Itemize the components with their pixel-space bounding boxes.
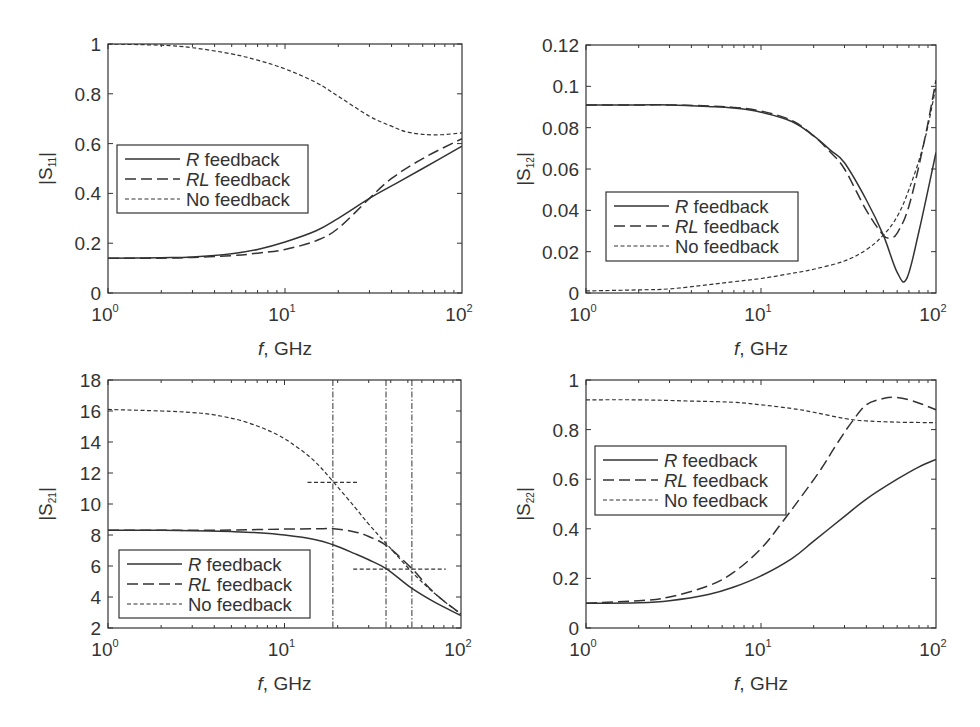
legend-entry-symbol: R (186, 149, 199, 170)
y-tick-label: 0.8 (75, 84, 101, 105)
legend-entry-symbol: R (664, 450, 677, 471)
x-tick-exponent: 2 (466, 637, 472, 649)
x-axis-label: f, GHz (734, 673, 788, 694)
legend-entry-text: feedback (199, 149, 280, 170)
y-tick-label: 18 (80, 370, 101, 391)
legend-entry-text: feedback (210, 169, 291, 190)
y-tick-label: 0.02 (542, 242, 579, 263)
x-tick-label: 101 (268, 302, 295, 325)
subplot-s21: 24681012141618100101102f, GHz|S21|R feed… (35, 370, 472, 694)
figure: 00.20.40.60.81100101102f, GHz|S11|R feed… (0, 0, 980, 727)
y-axis-label-end: | (35, 152, 56, 157)
y-tick-label: 0.4 (75, 183, 102, 204)
x-tick-exponent: 1 (290, 302, 296, 314)
subplot-s11: 00.20.40.60.81100101102f, GHz|S11|R feed… (35, 34, 473, 359)
y-tick-label: 0.08 (542, 118, 579, 139)
x-tick-exponent: 1 (766, 637, 772, 649)
x-tick-base: 10 (569, 304, 590, 325)
legend-entry-text: No feedback (188, 594, 293, 615)
x-tick-label: 102 (445, 302, 472, 325)
x-tick-base: 10 (744, 304, 765, 325)
series-line-no-feedback (108, 44, 462, 135)
y-tick-label: 0.4 (553, 519, 580, 540)
x-tick-exponent: 2 (941, 302, 947, 314)
y-axis-label-base: |S (35, 167, 56, 185)
legend-entry-text: No feedback (186, 189, 291, 210)
x-axis-label-unit: , GHz (739, 338, 788, 359)
x-tick-exponent: 0 (591, 302, 597, 314)
y-tick-label: 0.04 (542, 200, 579, 221)
legend-entry: No feedback (186, 189, 291, 210)
y-tick-label: 0.2 (553, 568, 579, 589)
x-tick-label: 100 (569, 302, 596, 325)
y-tick-label: 6 (90, 556, 101, 577)
legend-entry-symbol: RL (675, 216, 699, 237)
legend-entry: No feedback (664, 490, 769, 511)
y-tick-label: 0.6 (553, 469, 579, 490)
legend-entry-symbol: R (188, 554, 201, 575)
y-tick-label: 0.6 (75, 134, 101, 155)
legend-entry-symbol: RL (186, 169, 210, 190)
legend-entry-text: feedback (688, 470, 769, 491)
legend-entry: RL feedback (188, 574, 293, 595)
legend-entry: R feedback (186, 149, 280, 170)
legend-entry: RL feedback (186, 169, 291, 190)
y-tick-label: 0 (568, 618, 579, 639)
legend-entry-symbol: R (675, 196, 688, 217)
x-axis-label-unit: , GHz (263, 673, 312, 694)
legend-entry-text: No feedback (675, 236, 780, 257)
y-axis-label: |S12| (513, 152, 536, 186)
x-tick-label: 102 (919, 302, 946, 325)
y-axis-label-base: |S (513, 168, 534, 186)
subplot-s12: 00.020.040.060.080.10.12100101102f, GHz|… (513, 35, 947, 359)
legend-entry: No feedback (675, 236, 780, 257)
legend-entry: RL feedback (675, 216, 780, 237)
x-axis-label: f, GHz (734, 338, 788, 359)
legend-entry: R feedback (675, 196, 769, 217)
legend-entry-text: feedback (699, 216, 780, 237)
legend-entry-text: feedback (688, 196, 769, 217)
y-tick-label: 0.8 (553, 420, 579, 441)
legend-entry: R feedback (188, 554, 282, 575)
legend-entry-symbol: RL (188, 574, 212, 595)
x-tick-label: 100 (91, 302, 118, 325)
legend: R feedbackRL feedbackNo feedback (595, 446, 786, 515)
x-axis-label-unit: , GHz (739, 673, 788, 694)
y-axis-label-subscript: 12 (525, 157, 536, 169)
x-tick-exponent: 2 (467, 302, 473, 314)
y-tick-label: 0.1 (553, 76, 579, 97)
legend-entry-symbol: RL (664, 470, 688, 491)
x-tick-label: 102 (919, 637, 946, 660)
y-tick-label: 0 (568, 283, 579, 304)
x-tick-label: 102 (444, 637, 471, 660)
y-axis-label-end: | (513, 487, 534, 492)
y-axis-label-subscript: 11 (47, 157, 58, 168)
x-tick-label: 100 (569, 637, 596, 660)
y-axis-label-base: |S (513, 503, 534, 521)
x-tick-exponent: 0 (591, 637, 597, 649)
x-tick-exponent: 2 (941, 637, 947, 649)
legend-entry-text: No feedback (664, 490, 769, 511)
legend-entry: RL feedback (664, 470, 769, 491)
x-tick-label: 100 (91, 637, 118, 660)
x-tick-exponent: 1 (766, 302, 772, 314)
y-axis-label-subscript: 22 (525, 492, 536, 504)
x-tick-base: 10 (919, 639, 940, 660)
y-tick-label: 1 (90, 34, 101, 55)
legend: R feedbackRL feedbackNo feedback (606, 192, 798, 261)
legend-entry: R feedback (664, 450, 758, 471)
y-axis-label-end: | (513, 152, 534, 157)
x-axis-label: f, GHz (258, 673, 312, 694)
y-tick-label: 8 (90, 525, 101, 546)
series-line-no-feedback (586, 400, 936, 423)
y-tick-label: 14 (80, 432, 102, 453)
x-tick-base: 10 (919, 304, 940, 325)
y-axis-label: |S22| (513, 487, 536, 521)
x-tick-exponent: 1 (289, 637, 295, 649)
legend-entry-text: feedback (201, 554, 282, 575)
y-axis-label-subscript: 21 (47, 492, 58, 504)
y-tick-label: 0.2 (75, 233, 101, 254)
y-tick-label: 2 (90, 618, 101, 639)
y-tick-label: 4 (90, 587, 101, 608)
y-axis-label: |S21| (35, 487, 58, 521)
